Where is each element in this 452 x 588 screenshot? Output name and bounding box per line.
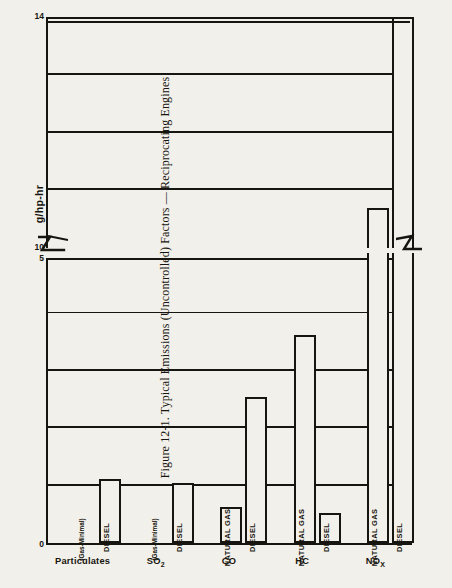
bar-label: (Gas-Minimal) [152,518,158,560]
axis-break-symbol-right [396,228,422,262]
x-category-label: SO2 [119,556,192,568]
y-tick-14: 14 [18,12,44,21]
figure-page: g/hp-hr 14 10 5 0 (Gas-Minimal)DIESEL(Ga… [0,0,452,588]
lower-axis-panel: (Gas-Minimal)DIESEL(Gas-Minimal)DIESELNA… [46,258,412,545]
bar-label: DIESEL [395,522,402,551]
bar-label: DIESEL [176,522,183,551]
bar-label: DIESEL [322,522,329,551]
bar: DIESEL [392,253,414,543]
bar-zero: (Gas-Minimal) [147,541,169,543]
x-category-label: NOX [339,556,412,568]
lower-bars-layer: (Gas-Minimal)DIESEL(Gas-Minimal)DIESELNA… [48,260,410,543]
bar-upper-segment [367,208,389,248]
x-axis-category-labels: ParticulatesSO2COHCNOX [46,556,412,576]
bar-zero: (Gas-Minimal) [74,541,96,543]
bar: NATURAL GAS [367,253,389,543]
y-axis-tick-labels: 14 10 5 0 [14,0,44,560]
chart-plot-area: (Gas-Minimal)DIESEL(Gas-Minimal)DIESELNA… [46,17,412,545]
bar: DIESEL [245,397,267,543]
x-category-label: Particulates [46,556,119,566]
upper-bars-layer [48,19,410,248]
bar: NATURAL GAS [220,507,242,543]
bar-label: (Gas-Minimal) [79,518,85,560]
bar: NATURAL GAS [294,335,316,543]
bar: DIESEL [172,483,194,543]
x-category-label: HC [266,556,339,566]
bar: DIESEL [319,513,341,543]
bar: DIESEL [99,479,121,543]
bar-label: DIESEL [103,522,110,551]
figure-caption: Figure 12-1. Typical Emissions (Uncontro… [158,43,173,513]
axis-break-symbol-left [38,228,68,262]
upper-axis-panel [46,17,412,248]
bar-label: DIESEL [249,522,256,551]
x-category-label: CO [192,556,265,566]
bar-upper-segment [392,17,414,248]
y-tick-0: 0 [18,540,44,549]
